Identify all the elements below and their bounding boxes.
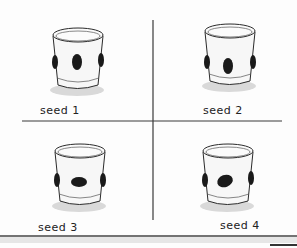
bean-seed-right-icon <box>100 173 106 187</box>
cup-rim <box>203 144 253 158</box>
cup-2 <box>202 24 256 92</box>
bean-seed-left-icon <box>54 173 60 187</box>
cup-rim <box>205 24 255 38</box>
seed-cups-diagram: seed 1 seed 2 seed 3 seed 4 <box>0 0 297 248</box>
cup-1 <box>50 28 104 96</box>
cup-4 <box>200 144 254 212</box>
cup-body <box>205 32 255 85</box>
seed-1-label: seed 1 <box>40 104 80 117</box>
diagram-drawing <box>0 0 297 248</box>
bean-seed-icon <box>223 58 233 74</box>
bean-seed-left-icon <box>204 55 210 69</box>
bean-seed-left-icon <box>52 55 58 69</box>
bean-seed-right-icon <box>98 53 104 67</box>
bean-seed-right-icon <box>248 171 254 185</box>
cup-rim <box>53 28 103 42</box>
seed-3-label: seed 3 <box>38 221 78 234</box>
bean-seed-icon <box>72 54 82 70</box>
seed-2-label: seed 2 <box>203 104 243 117</box>
cup-3 <box>52 144 106 212</box>
bean-seed-left-icon <box>202 173 208 187</box>
seed-4-label: seed 4 <box>220 219 260 232</box>
bean-seed-right-icon <box>250 55 256 69</box>
bean-seed-icon <box>71 177 87 187</box>
cup-rim <box>55 144 105 158</box>
bottom-smudge <box>0 237 297 243</box>
